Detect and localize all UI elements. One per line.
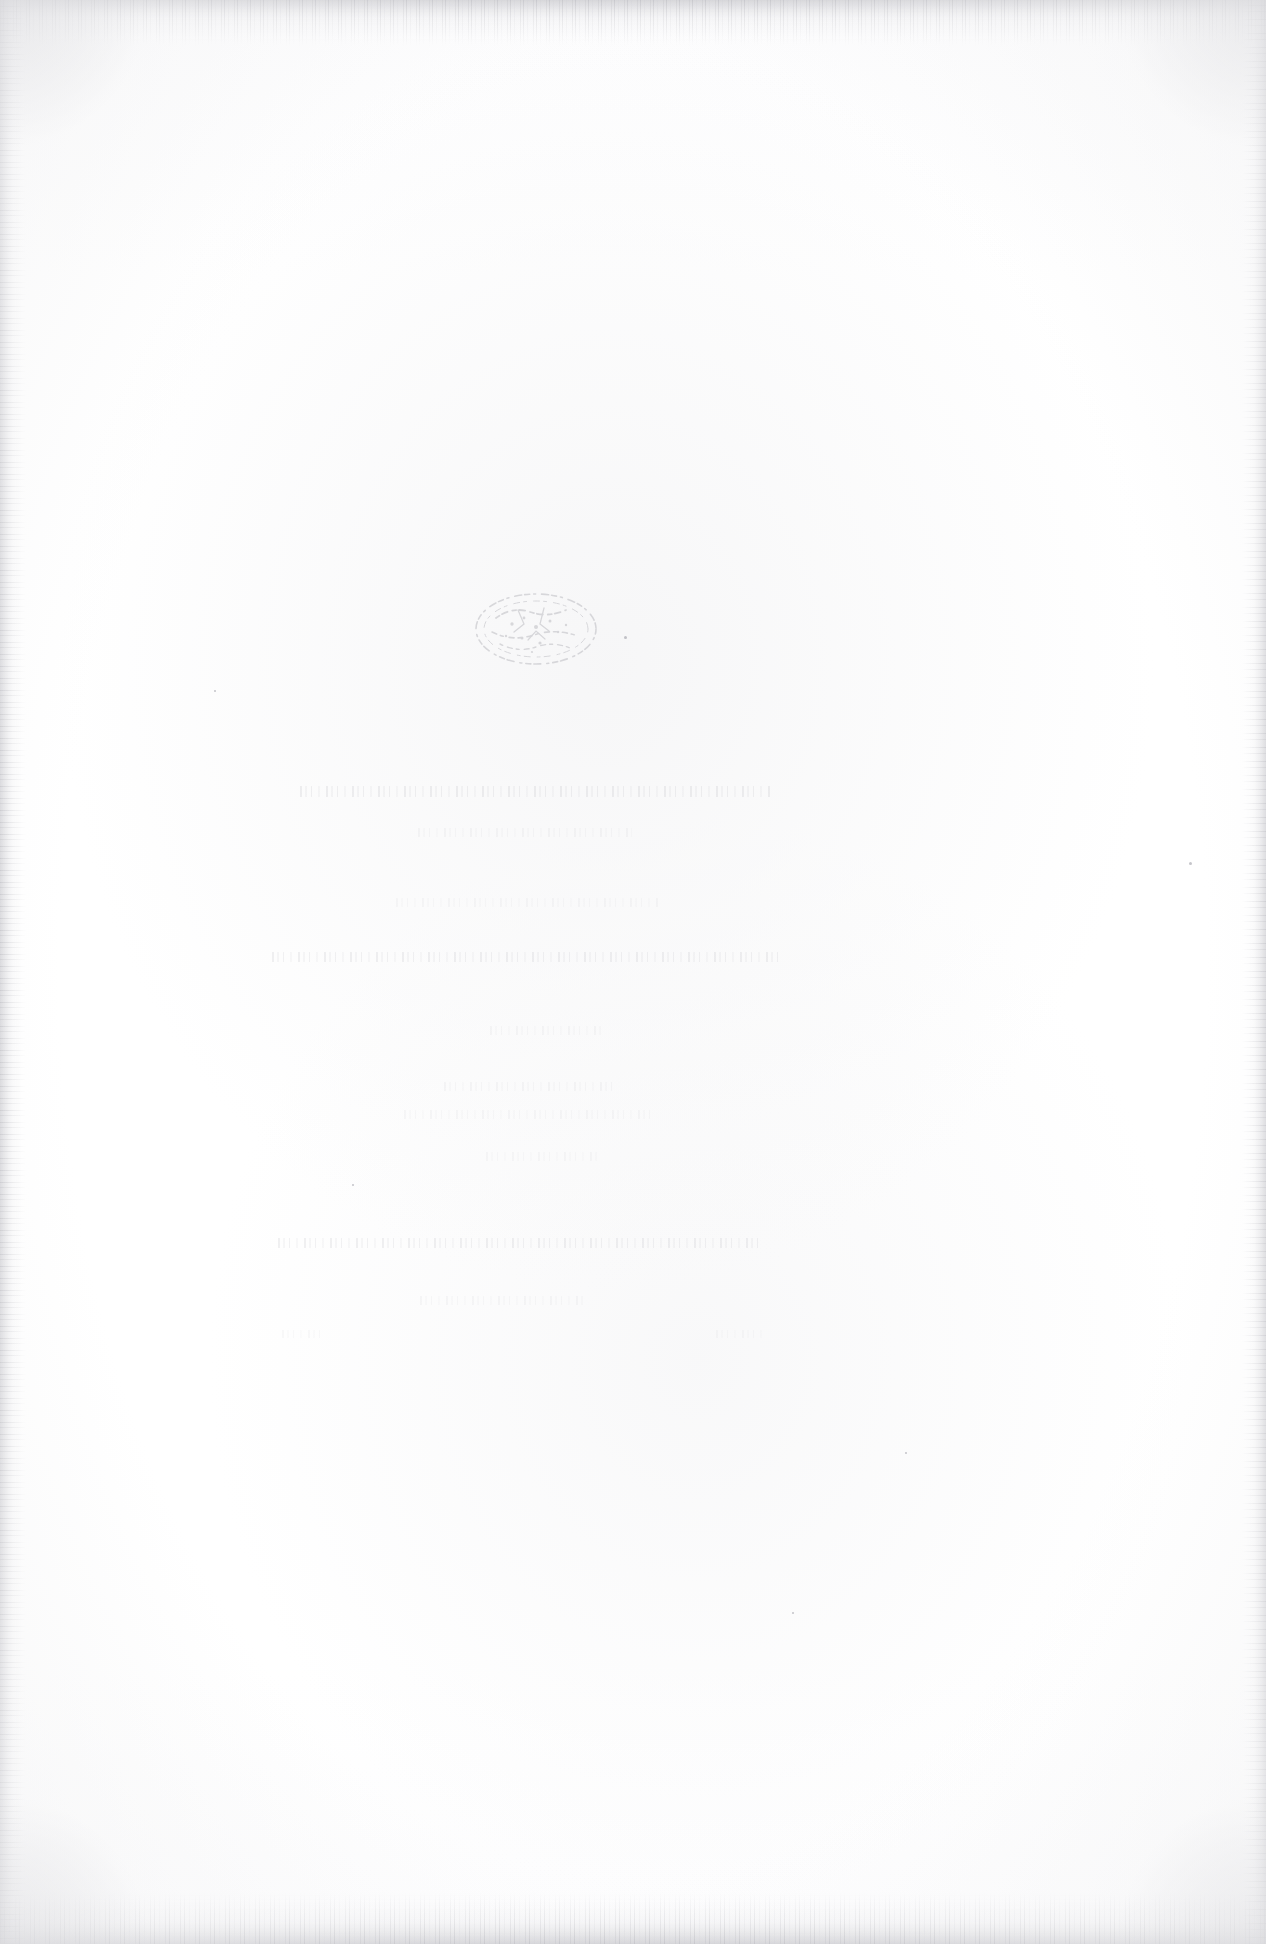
ghost-text-line	[396, 898, 660, 907]
paper-texture	[0, 0, 1266, 1944]
ghost-text-line	[444, 1082, 614, 1091]
scan-edge-left	[0, 0, 26, 1944]
scanned-page	[0, 0, 1266, 1944]
scan-edge-right	[1242, 0, 1266, 1944]
dust-speck	[352, 1184, 354, 1186]
ghost-text-line	[282, 1330, 326, 1338]
scan-corner-bottom-right	[1116, 1794, 1266, 1944]
dust-speck	[214, 690, 216, 692]
ghost-text-line	[404, 1110, 656, 1119]
dust-speck	[905, 1452, 907, 1454]
scan-edge-top	[0, 0, 1266, 46]
ghost-text-line	[418, 828, 632, 837]
scan-corner-top-left	[0, 0, 150, 150]
ghost-text-line	[420, 1296, 584, 1305]
ghost-text-line	[490, 1026, 602, 1035]
scan-corner-bottom-left	[0, 1794, 150, 1944]
ghost-text-line	[486, 1152, 598, 1161]
printers-device-emblem	[466, 580, 606, 678]
ghost-text-line	[300, 786, 770, 797]
dust-speck	[792, 1612, 794, 1614]
ghost-text-line	[272, 952, 784, 962]
scan-edge-bottom	[0, 1892, 1266, 1944]
dust-speck	[624, 636, 627, 639]
ghost-text-line	[716, 1330, 762, 1338]
scan-corner-top-right	[1116, 0, 1266, 150]
dust-speck	[1189, 862, 1192, 865]
ghost-text-line	[278, 1238, 764, 1248]
paper-vignette	[0, 0, 1266, 1944]
